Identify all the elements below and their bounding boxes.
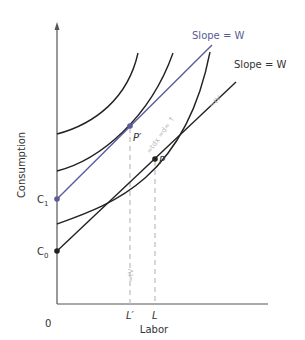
faint-annotation-2: ≈tdx ≈d≈ ↑ bbox=[145, 115, 177, 155]
y-axis-title: Consumption bbox=[16, 132, 27, 198]
faint-annotation-1: ≈tV bbox=[127, 268, 135, 282]
y-axis-arrow-icon bbox=[55, 22, 60, 30]
x-axis-title: Labor bbox=[140, 324, 169, 335]
point-p bbox=[152, 156, 158, 162]
point-p-prime bbox=[127, 123, 133, 129]
indifference-curve-top bbox=[57, 53, 138, 134]
label-p-prime: P′ bbox=[133, 132, 142, 143]
slope-label-blue: Slope = W bbox=[192, 30, 244, 41]
budget-line-blue bbox=[57, 45, 212, 199]
slope-label-black: Slope = W bbox=[234, 59, 286, 70]
indifference-curve-middle bbox=[57, 53, 173, 171]
origin-label: 0 bbox=[45, 318, 51, 329]
budget-line-black bbox=[57, 82, 236, 251]
label-c1: C1 bbox=[37, 194, 48, 208]
label-l-prime: L′ bbox=[126, 310, 135, 321]
point-c1 bbox=[54, 196, 60, 202]
label-c0: C0 bbox=[37, 246, 48, 260]
labor-consumption-diagram: Slope = W Slope = W P′ P C1 C0 0 L′ L La… bbox=[0, 0, 305, 340]
label-l: L bbox=[152, 310, 158, 321]
point-c0 bbox=[54, 248, 60, 254]
label-p: P bbox=[159, 155, 166, 166]
